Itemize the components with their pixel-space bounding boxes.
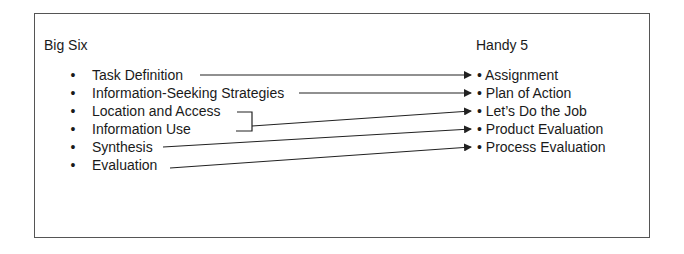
bracket-location-use bbox=[236, 112, 252, 131]
arrow-synthesis-to-product bbox=[163, 129, 471, 147]
mapping-arrows bbox=[0, 0, 684, 254]
arrow-bracket-to-job bbox=[252, 111, 471, 126]
arrow-evaluation-to-process bbox=[170, 147, 471, 168]
